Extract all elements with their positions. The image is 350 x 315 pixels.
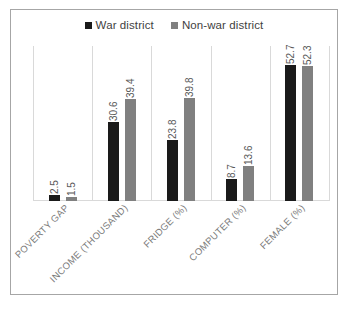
legend-label-non-war-district: Non-war district <box>182 19 263 31</box>
category-label-text: POVERTY GAP <box>12 202 70 260</box>
legend-swatch-non-war-district <box>171 22 178 29</box>
plot-inner: 2.51.530.639.423.839.88.713.652.752.3 <box>33 46 329 201</box>
category-label-text: FRIDGE (%) <box>141 202 189 250</box>
bar-slot: 2.5 <box>49 46 60 201</box>
legend-swatch-war-district <box>85 22 92 29</box>
category-label-text: COMPUTER (%) <box>187 202 248 263</box>
bar[interactable] <box>285 65 296 201</box>
bar[interactable] <box>49 195 60 201</box>
category-axis-labels: POVERTY GAPINCOME (THOUSAND)FRIDGE (%)CO… <box>33 202 329 297</box>
plot-area: 2.51.530.639.423.839.88.713.652.752.3 <box>33 46 329 201</box>
bar-slot: 8.7 <box>226 46 237 201</box>
chart-container: War district Non-war district 2.51.530.6… <box>10 9 338 295</box>
bar-slot: 13.6 <box>243 46 254 201</box>
category-label-text: FEMALE (%) <box>258 202 307 251</box>
legend-item-non-war-district[interactable]: Non-war district <box>171 19 263 31</box>
bar-slot: 52.7 <box>285 46 296 201</box>
bar-slot: 52.3 <box>302 46 313 201</box>
bar[interactable] <box>226 179 237 201</box>
bar-slot: 39.4 <box>125 46 136 201</box>
bar-slot: 39.8 <box>184 46 195 201</box>
bar-slot: 23.8 <box>167 46 178 201</box>
bar-slot: 1.5 <box>66 46 77 201</box>
legend-item-war-district[interactable]: War district <box>85 19 154 31</box>
bar-group: 2.51.5 <box>33 46 92 201</box>
bar[interactable] <box>125 99 136 201</box>
bar-slot: 30.6 <box>108 46 119 201</box>
legend-label-war-district: War district <box>96 19 154 31</box>
bar[interactable] <box>302 66 313 201</box>
chart-legend: War district Non-war district <box>11 19 337 31</box>
